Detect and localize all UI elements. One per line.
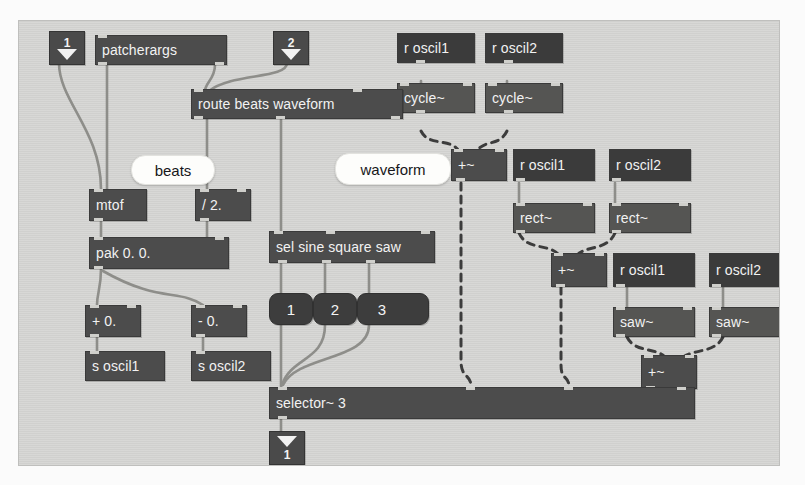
- patcher-canvas[interactable]: 1 patcherargs 2 r oscil1 r oscil2 cycle~: [18, 20, 780, 466]
- object-r-oscil1-rect[interactable]: r oscil1: [513, 149, 595, 181]
- object-selector-label: selector~ 3: [276, 396, 346, 410]
- object-sel[interactable]: sel sine square saw: [269, 231, 435, 263]
- object-plus-sig-saw-label: +~: [648, 365, 665, 379]
- inlet-2[interactable]: 2: [273, 31, 309, 65]
- object-send-oscil1-label: s oscil1: [92, 359, 139, 373]
- comment-waveform: waveform: [335, 153, 451, 185]
- object-rect1[interactable]: rect~: [513, 203, 595, 233]
- comment-waveform-label: waveform: [360, 161, 425, 178]
- object-r-oscil2-rect[interactable]: r oscil2: [609, 149, 691, 181]
- message-box-3[interactable]: 3: [357, 293, 429, 325]
- object-r-oscil1-cycle-label: r oscil1: [404, 41, 449, 55]
- object-plus-zero-label: + 0.: [92, 314, 116, 328]
- object-cycle1[interactable]: cycle~: [397, 83, 475, 113]
- object-saw2-label: saw~: [716, 315, 749, 329]
- object-plus-sig-cycle-label: +~: [458, 158, 475, 172]
- object-saw2[interactable]: saw~: [709, 307, 780, 337]
- inlet-1-number: 1: [64, 37, 71, 49]
- object-cycle2-label: cycle~: [492, 91, 533, 105]
- object-r-oscil1-cycle[interactable]: r oscil1: [397, 33, 475, 63]
- object-mtof[interactable]: mtof: [89, 189, 147, 221]
- patcher-window: 1 patcherargs 2 r oscil1 r oscil2 cycle~: [0, 0, 805, 485]
- object-plus-sig-saw[interactable]: +~: [641, 355, 697, 389]
- object-route-label: route beats waveform: [198, 97, 335, 111]
- object-sel-label: sel sine square saw: [276, 240, 401, 254]
- object-rect2[interactable]: rect~: [609, 203, 691, 233]
- object-r-oscil2-cycle[interactable]: r oscil2: [485, 33, 563, 63]
- object-r-oscil2-rect-label: r oscil2: [616, 158, 661, 172]
- object-cycle2[interactable]: cycle~: [485, 83, 563, 113]
- object-route[interactable]: route beats waveform: [191, 89, 403, 119]
- message-box-1-label: 1: [287, 301, 295, 318]
- object-plus-sig-rect[interactable]: +~: [551, 253, 607, 287]
- object-patcherargs-label: patcherargs: [102, 43, 177, 57]
- message-box-3-label: 3: [378, 301, 386, 318]
- object-plus-zero[interactable]: + 0.: [85, 305, 141, 337]
- inlet-arrow-icon: [281, 49, 301, 60]
- inlet-arrow-icon: [57, 49, 77, 60]
- object-divide[interactable]: / 2.: [195, 189, 251, 221]
- object-r-oscil1-saw-label: r oscil1: [620, 263, 665, 277]
- object-plus-sig-rect-label: +~: [558, 263, 575, 277]
- object-send-oscil2[interactable]: s oscil2: [191, 351, 271, 381]
- object-r-oscil2-cycle-label: r oscil2: [492, 41, 537, 55]
- object-r-oscil1-rect-label: r oscil1: [520, 158, 565, 172]
- object-saw1[interactable]: saw~: [613, 307, 695, 337]
- object-patcherargs[interactable]: patcherargs: [95, 35, 227, 65]
- message-box-2[interactable]: 2: [313, 293, 357, 325]
- object-selector[interactable]: selector~ 3: [269, 387, 695, 419]
- object-rect1-label: rect~: [520, 211, 552, 225]
- object-r-oscil1-saw[interactable]: r oscil1: [613, 253, 695, 287]
- inlet-2-number: 2: [288, 37, 295, 49]
- inlet-1[interactable]: 1: [49, 31, 85, 65]
- object-cycle1-label: cycle~: [404, 91, 445, 105]
- object-mtof-label: mtof: [96, 198, 124, 212]
- object-pak-label: pak 0. 0.: [96, 246, 151, 260]
- object-divide-label: / 2.: [202, 198, 222, 212]
- message-box-2-label: 2: [331, 301, 339, 318]
- object-r-oscil2-saw[interactable]: r oscil2: [709, 253, 780, 287]
- outlet-arrow-icon: [277, 436, 297, 447]
- object-saw1-label: saw~: [620, 315, 653, 329]
- object-rect2-label: rect~: [616, 211, 648, 225]
- comment-beats-label: beats: [155, 162, 192, 179]
- message-box-1[interactable]: 1: [269, 293, 313, 325]
- outlet-1[interactable]: 1: [269, 431, 305, 465]
- object-pak[interactable]: pak 0. 0.: [89, 237, 229, 269]
- outlet-1-number: 1: [284, 449, 291, 461]
- object-minus-zero[interactable]: - 0.: [191, 305, 247, 337]
- object-send-oscil2-label: s oscil2: [198, 359, 245, 373]
- object-r-oscil2-saw-label: r oscil2: [716, 263, 761, 277]
- object-plus-sig-cycle[interactable]: +~: [451, 149, 507, 181]
- comment-beats: beats: [131, 155, 215, 185]
- object-send-oscil1[interactable]: s oscil1: [85, 351, 165, 381]
- object-minus-zero-label: - 0.: [198, 314, 219, 328]
